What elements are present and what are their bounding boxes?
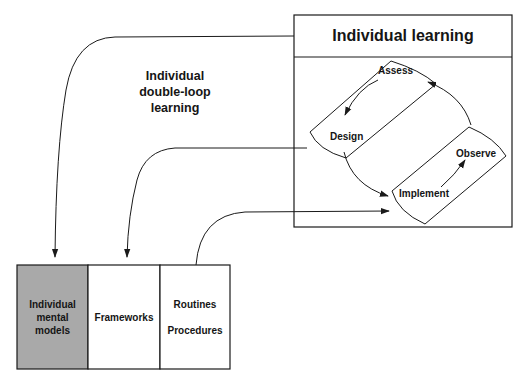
mental-models-line2: mental	[17, 311, 88, 324]
double-loop-label-line1: Individual	[130, 68, 220, 84]
arrow-to-frameworks	[127, 148, 307, 257]
double-loop-label: Individual double-loop learning	[130, 68, 220, 116]
procedures-line: Procedures	[160, 324, 230, 337]
mental-models-line3: models	[17, 324, 88, 337]
mental-models-line1: Individual	[17, 298, 88, 311]
frameworks-label: Frameworks	[88, 311, 160, 324]
spacer	[160, 311, 230, 324]
routines-procedures-label: Routines Procedures	[160, 298, 230, 337]
double-loop-label-line3: learning	[130, 100, 220, 116]
mental-models-label: Individual mental models	[17, 298, 88, 337]
assess-label: Assess	[378, 65, 413, 76]
observe-label: Observe	[456, 148, 496, 159]
design-label: Design	[330, 131, 363, 142]
double-loop-label-line2: double-loop	[130, 84, 220, 100]
implement-label: Implement	[399, 188, 449, 199]
routines-line: Routines	[160, 298, 230, 311]
individual-learning-title: Individual learning	[294, 27, 512, 45]
